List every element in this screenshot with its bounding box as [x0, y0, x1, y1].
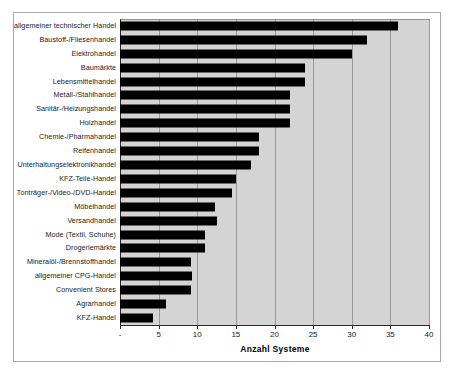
bar: [120, 91, 290, 100]
x-tick-mark: [390, 326, 391, 329]
bar-row: Holzhandel: [14, 116, 429, 130]
category-label: Mineralöl-/Brennstoffhandel: [14, 258, 120, 266]
bar-row: Chemie-/Pharmahandel: [14, 130, 429, 144]
bar-track: [120, 61, 429, 75]
bar-track: [120, 75, 429, 89]
bar-row: Unterhaltungselektronikhandel: [14, 158, 429, 172]
category-label: Mode (Textil, Schuhe): [14, 231, 120, 239]
x-tick-mark: [352, 326, 353, 329]
bar: [120, 286, 191, 295]
bar-track: [120, 116, 429, 130]
bar-track: [120, 172, 429, 186]
category-label: KFZ-Handel: [14, 314, 120, 322]
bar-row: Convenient Stores: [14, 283, 429, 297]
bar: [120, 35, 367, 44]
bar-track: [120, 47, 429, 61]
bar: [120, 105, 290, 114]
bar: [120, 258, 191, 267]
category-label: Drogeriemärkte: [14, 244, 120, 252]
bar-row: Drogeriemärkte: [14, 242, 429, 256]
x-tick-mark: [275, 326, 276, 329]
category-label: allgemeiner CPG-Handel: [14, 272, 120, 280]
x-axis-title: Anzahl Systeme: [120, 344, 430, 354]
bar-rows: allgemeiner technischer HandelBaustoff-/…: [14, 19, 429, 325]
category-label: allgemeiner technischer Handel: [14, 22, 120, 30]
bar-track: [120, 283, 429, 297]
category-label: Agrarhandel: [14, 300, 120, 308]
bar: [120, 77, 305, 86]
x-tick-label: 40: [425, 330, 434, 340]
x-tick-label: 15: [231, 330, 240, 340]
bar-row: Versandhandel: [14, 214, 429, 228]
category-label: Baustoff-/Fliesenhandel: [14, 36, 120, 44]
x-tick-label: -: [119, 330, 122, 340]
x-tick-label: 5: [156, 330, 160, 340]
bar-track: [120, 144, 429, 158]
bar: [120, 216, 217, 225]
bar-track: [120, 130, 429, 144]
category-label: Unterhaltungselektronikhandel: [14, 161, 120, 169]
x-tick-mark: [429, 326, 430, 329]
category-label: Holzhandel: [14, 119, 120, 127]
bar-row: Reifenhandel: [14, 144, 429, 158]
gridline: [429, 20, 430, 326]
category-label: Reifenhandel: [14, 147, 120, 155]
bar-row: Mode (Textil, Schuhe): [14, 228, 429, 242]
bar-track: [120, 297, 429, 311]
category-label: Versandhandel: [14, 217, 120, 225]
bar: [120, 161, 251, 170]
bar-track: [120, 186, 429, 200]
x-tick-label: 30: [347, 330, 356, 340]
bar: [120, 272, 192, 281]
bar-track: [120, 102, 429, 116]
bar-track: [120, 200, 429, 214]
category-label: Baumärkte: [14, 64, 120, 72]
bar-row: Mineralöl-/Brennstoffhandel: [14, 255, 429, 269]
bar-row: Baustoff-/Fliesenhandel: [14, 33, 429, 47]
bar-row: Agrarhandel: [14, 297, 429, 311]
bar-track: [120, 269, 429, 283]
bar: [120, 63, 305, 72]
bar-track: [120, 33, 429, 47]
category-label: Convenient Stores: [14, 286, 120, 294]
bar-row: Sanitär-/Heizungshandel: [14, 102, 429, 116]
bar-track: [120, 311, 429, 325]
bar-track: [120, 228, 429, 242]
x-axis-ticks: -510152025303540: [14, 326, 442, 342]
bar-track: [120, 158, 429, 172]
bar-row: allgemeiner CPG-Handel: [14, 269, 429, 283]
x-tick-mark: [197, 326, 198, 329]
bar-track: [120, 214, 429, 228]
bar: [120, 174, 236, 183]
x-tick-mark: [313, 326, 314, 329]
category-label: Sanitär-/Heizungshandel: [14, 105, 120, 113]
bar: [120, 21, 398, 30]
x-tick-label: 35: [386, 330, 395, 340]
bar-row: Elektrohandel: [14, 47, 429, 61]
bar-row: Lebensmittelhandel: [14, 75, 429, 89]
bar: [120, 49, 352, 58]
bar-row: Möbelhandel: [14, 200, 429, 214]
bar-track: [120, 19, 429, 33]
bar: [120, 133, 259, 142]
category-label: Chemie-/Pharmahandel: [14, 133, 120, 141]
x-tick-label: 25: [309, 330, 318, 340]
bar: [120, 147, 259, 156]
x-tick-mark: [236, 326, 237, 329]
bar: [120, 188, 232, 197]
x-tick-label: 20: [270, 330, 279, 340]
bar: [120, 244, 205, 253]
bar: [120, 230, 205, 239]
category-label: Möbelhandel: [14, 203, 120, 211]
bar: [120, 119, 290, 128]
bar: [120, 300, 166, 309]
x-tick-mark: [159, 326, 160, 329]
bar-row: Tonträger-/Video-/DVD-Handel: [14, 186, 429, 200]
bar-track: [120, 89, 429, 103]
bar-row: Baumärkte: [14, 61, 429, 75]
bar: [120, 314, 153, 323]
category-label: Tonträger-/Video-/DVD-Handel: [14, 189, 120, 197]
bar-row: KFZ-Teile-Handel: [14, 172, 429, 186]
category-label: KFZ-Teile-Handel: [14, 175, 120, 183]
bar-track: [120, 242, 429, 256]
